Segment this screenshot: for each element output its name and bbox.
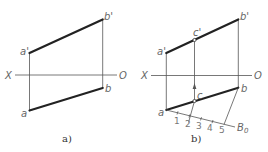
tick-label-3: 3: [196, 121, 202, 131]
point-label-a-prime: a': [157, 46, 166, 57]
axis-label-o: O: [119, 70, 127, 81]
point-label-c: c: [197, 90, 203, 101]
point-c: [193, 99, 196, 102]
connector-b-5: [224, 88, 238, 125]
point-label-b0: B0: [237, 122, 249, 135]
figure-a: X O a' b' b a a): [4, 11, 127, 144]
line-a-prime-b-prime: [166, 20, 238, 54]
point-label-a: a: [158, 107, 164, 118]
arrow-up-icon: [193, 83, 197, 89]
point-label-a-prime: a': [20, 46, 29, 57]
point-label-b-prime: b': [104, 11, 113, 22]
tick-label-5: 5: [219, 125, 225, 135]
point-label-b: b: [105, 83, 111, 94]
point-label-b-prime: b': [240, 11, 249, 22]
tick-label-4: 4: [207, 123, 213, 133]
caption-a: a): [62, 133, 72, 144]
tick-label-1: 1: [174, 116, 180, 126]
tick-1: [177, 111, 178, 114]
line-a-prime-b-prime: [30, 20, 103, 54]
tick-3: [201, 117, 202, 120]
point-label-b: b: [241, 83, 247, 94]
axis-label-x: X: [4, 70, 13, 81]
axis-label-o: O: [254, 70, 262, 81]
point-label-c-prime: c': [193, 27, 201, 38]
figure-b: X O a' b' c' b c a 1 2 3 4 5 B0 b): [140, 11, 262, 144]
tick-label-2: 2: [185, 119, 191, 129]
axis-label-x: X: [140, 70, 149, 81]
point-label-a: a: [21, 108, 27, 119]
point-c-prime: [193, 38, 196, 41]
projection-diagram: X O a' b' b a a) X O: [0, 0, 268, 152]
line-a-b: [30, 88, 103, 111]
caption-b: b): [191, 133, 201, 144]
